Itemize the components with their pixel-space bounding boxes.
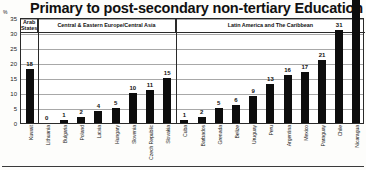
x-axis-label-slot: Kuwait	[20, 124, 37, 170]
x-axis-label-slot: Cuba	[175, 124, 192, 170]
bar-slot: 5	[210, 19, 227, 123]
y-axis-tick-label: 15	[0, 76, 17, 82]
x-axis-category-labels: KuwaitLithuaniaBulgariaPolandLatviaHunga…	[20, 124, 364, 170]
bar-value-label: 31	[336, 22, 343, 29]
bar[interactable]	[284, 75, 292, 123]
x-axis-category-label: Bulgaria	[63, 125, 68, 143]
x-axis-category-label: Argentina	[287, 125, 292, 146]
bar-value-label: 10	[129, 85, 136, 92]
x-axis-category-label: Nicaragua	[355, 125, 360, 148]
bar-slot: 17	[296, 19, 313, 123]
x-axis-category-label: Chile	[338, 125, 343, 136]
bar-slot: 21	[313, 19, 330, 123]
bar[interactable]	[60, 120, 68, 123]
bar[interactable]	[232, 105, 240, 123]
chart-title: Primary to post-secondary non-tertiary E…	[30, 0, 360, 18]
bar-value-label: 21	[319, 52, 326, 59]
y-axis-tick-label: 30	[0, 31, 17, 37]
x-axis-category-label: Barbados	[201, 125, 206, 146]
bar[interactable]	[318, 60, 326, 123]
bar-value-label: 6	[234, 97, 237, 104]
bar[interactable]	[163, 78, 171, 123]
bar-slot: 1	[55, 19, 72, 123]
bar[interactable]	[146, 90, 154, 123]
bottom-divider	[2, 166, 364, 167]
bar-value-label: 16	[284, 67, 291, 74]
bar-value-label: 1	[183, 112, 186, 119]
x-axis-label-slot: Poland	[72, 124, 89, 170]
bar[interactable]	[180, 120, 188, 123]
bar-slot: 9	[245, 19, 262, 123]
y-axis-tick-label: 0	[0, 121, 17, 127]
y-axis-tick-label: 10	[0, 91, 17, 97]
x-axis-label-slot: Barbados	[192, 124, 209, 170]
x-axis-label-slot: Slovakia	[158, 124, 175, 170]
bar[interactable]	[94, 111, 102, 123]
x-axis-label-slot: Chile	[330, 124, 347, 170]
x-axis-category-label: Kuwait	[29, 125, 34, 140]
bar-value-label: 15	[164, 70, 171, 77]
bar-slot: 16	[279, 19, 296, 123]
bar[interactable]	[301, 72, 309, 123]
bar-value-label: 2	[200, 109, 203, 116]
bar[interactable]	[352, 0, 360, 123]
bar-slot: 5	[107, 19, 124, 123]
bar[interactable]	[77, 117, 85, 123]
bar[interactable]	[335, 30, 343, 123]
bar-value-label: 17	[301, 64, 308, 71]
x-axis-label-slot: Argentina	[278, 124, 295, 170]
bar-value-label: 13	[267, 76, 274, 83]
x-axis-label-slot: Belize	[226, 124, 243, 170]
bar-value-label: 11	[147, 82, 153, 89]
bar-slot: 2	[73, 19, 90, 123]
bar-slot: 31	[331, 19, 348, 123]
bar[interactable]	[112, 108, 120, 123]
bar[interactable]	[198, 117, 206, 123]
bar-slot: 48	[348, 19, 365, 123]
x-axis-category-label: Lithuania	[46, 125, 51, 145]
x-axis-label-slot: Latvia	[89, 124, 106, 170]
bar-slot: 18	[21, 19, 38, 123]
x-axis-category-label: Poland	[80, 125, 85, 141]
bar-slot: 4	[90, 19, 107, 123]
x-axis-category-label: Peru	[269, 125, 274, 136]
x-axis-label-slot: Lithuania	[37, 124, 54, 170]
bar-value-label: 9	[252, 88, 255, 95]
bar-slot: 6	[227, 19, 244, 123]
bar-value-label: 0	[45, 115, 48, 122]
x-axis-label-slot: Grenada	[209, 124, 226, 170]
x-axis-label-slot: Hungary	[106, 124, 123, 170]
bar[interactable]	[26, 69, 34, 123]
bar-slot: 0	[38, 19, 55, 123]
bar-chart: Primary to post-secondary non-tertiary E…	[0, 0, 366, 170]
bar-slot: 1	[176, 19, 193, 123]
x-axis-label-slot: Uruguay	[244, 124, 261, 170]
x-axis-category-label: Slovakia	[166, 125, 171, 144]
x-axis-label-slot: Slovenia	[123, 124, 140, 170]
bar[interactable]	[129, 93, 137, 123]
x-axis-label-slot: Bulgaria	[54, 124, 71, 170]
bar[interactable]	[249, 96, 257, 123]
x-axis-category-label: Mexico	[304, 125, 309, 141]
y-axis-unit-label: %	[3, 9, 7, 15]
x-axis-category-label: Belize	[235, 125, 240, 139]
x-axis-category-label: Grenada	[218, 125, 223, 145]
bar-value-label: 2	[80, 109, 83, 116]
y-axis-tick-label: 35	[0, 16, 17, 22]
y-axis-tick-label: 20	[0, 61, 17, 67]
x-axis-label-slot: Nicaragua	[347, 124, 364, 170]
x-axis-label-slot: Mexico	[295, 124, 312, 170]
y-axis-tick-label: 25	[0, 46, 17, 52]
x-axis-category-label: Cuba	[183, 125, 188, 137]
bar[interactable]	[215, 108, 223, 123]
y-axis-tick-label: 5	[0, 106, 17, 112]
x-axis-category-label: Paraguay	[321, 125, 326, 146]
bar-slot: 15	[159, 19, 176, 123]
x-axis-label-slot: Peru	[261, 124, 278, 170]
bar-slot: 10	[124, 19, 141, 123]
bar[interactable]	[266, 84, 274, 123]
x-axis-label-slot: Paraguay	[312, 124, 329, 170]
plot-area: Arab StatesCentral & Eastern Europe/Cent…	[20, 18, 364, 124]
bar-value-label: 18	[26, 61, 33, 68]
bar-value-label: 4	[97, 103, 100, 110]
